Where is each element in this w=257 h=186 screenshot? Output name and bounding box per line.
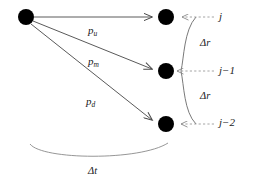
up-node bbox=[158, 9, 174, 25]
level-label-j-minus-2: j−2 bbox=[219, 117, 235, 128]
delta-r-lower-brace bbox=[181, 71, 196, 124]
branch-label-pm: pm bbox=[88, 56, 99, 67]
delta-r-lower-label: Δr bbox=[200, 91, 210, 102]
level-label-j: j bbox=[219, 11, 222, 22]
diagram-canvas bbox=[0, 0, 257, 186]
trinomial-tree-diagram: pu pm pd j j−1 j−2 Δr Δr Δt bbox=[0, 0, 257, 186]
down-node bbox=[158, 116, 174, 132]
delta-t-brace bbox=[30, 143, 168, 156]
delta-r-upper-label: Δr bbox=[200, 38, 210, 49]
delta-r-upper-brace bbox=[181, 17, 196, 71]
origin-node bbox=[18, 9, 34, 25]
branch-label-pd: pd bbox=[86, 96, 95, 107]
branch-label-pu: pu bbox=[88, 25, 97, 36]
level-label-j-minus-1: j−1 bbox=[219, 65, 235, 76]
delta-t-label: Δt bbox=[88, 166, 97, 177]
middle-node bbox=[158, 63, 174, 79]
